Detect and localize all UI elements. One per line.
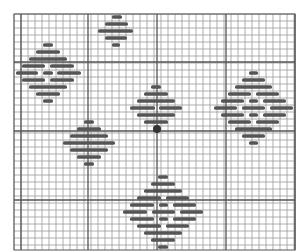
stitch-bar bbox=[123, 210, 147, 214]
lower-left-diamond bbox=[63, 120, 115, 166]
stitch-bar bbox=[249, 141, 258, 145]
stitch-bar bbox=[29, 85, 67, 89]
stitch-bar bbox=[151, 238, 175, 242]
stitch-bar bbox=[130, 217, 154, 221]
stitch-bar bbox=[159, 217, 168, 221]
stitch-bar bbox=[173, 203, 196, 207]
stitch-bar bbox=[151, 85, 161, 89]
stitch-bar bbox=[105, 22, 128, 26]
pattern-grid-svg bbox=[0, 0, 308, 252]
stitch-bar bbox=[159, 203, 168, 207]
stitch-bar bbox=[84, 120, 94, 124]
stitch-bar bbox=[16, 71, 38, 75]
stitch-bar bbox=[166, 196, 189, 200]
stitch-bar bbox=[242, 134, 265, 138]
stitch-bar bbox=[105, 36, 127, 40]
stitch-bar bbox=[159, 106, 182, 110]
stitch-bar bbox=[270, 106, 293, 110]
stitch-bar bbox=[263, 99, 286, 103]
stitch-bar bbox=[256, 120, 279, 124]
stitch-bar bbox=[50, 78, 74, 82]
stitch-bar bbox=[137, 99, 175, 103]
stitch-bar bbox=[144, 189, 182, 193]
stitch-bar bbox=[249, 71, 258, 75]
stitch-bar bbox=[235, 127, 272, 131]
stitch-bar bbox=[158, 245, 168, 249]
stitch-bar bbox=[29, 57, 67, 61]
stitch-bar bbox=[151, 182, 175, 186]
stitch-bar bbox=[180, 210, 203, 214]
stitch-bar bbox=[242, 106, 265, 110]
center-marker-icon bbox=[153, 125, 161, 133]
stitch-bar bbox=[43, 43, 53, 47]
stitch-bar bbox=[166, 224, 189, 228]
stitch-bar bbox=[63, 141, 115, 145]
stitch-bar bbox=[249, 113, 258, 117]
stitch-bar bbox=[130, 106, 155, 110]
stitch-bar bbox=[36, 92, 60, 96]
stitch-bar bbox=[235, 85, 272, 89]
stitch-bar bbox=[77, 155, 101, 159]
stitch-bar bbox=[57, 71, 81, 75]
stitch-bar bbox=[70, 134, 108, 138]
stitch-bar bbox=[43, 99, 53, 103]
stitch-bar bbox=[22, 78, 45, 82]
stitch-bar bbox=[50, 64, 74, 68]
stitch-bar bbox=[144, 231, 182, 235]
stitch-bar bbox=[228, 120, 251, 124]
stitch-bar bbox=[137, 224, 161, 228]
stitch-bar bbox=[228, 92, 251, 96]
stitch-bar bbox=[173, 217, 196, 221]
stitch-bar bbox=[36, 50, 60, 54]
stitch-bar bbox=[112, 15, 122, 19]
stitch-bar bbox=[43, 71, 53, 75]
stitch-bar bbox=[84, 162, 94, 166]
stitch-bar bbox=[144, 92, 168, 96]
stitch-bar bbox=[98, 29, 133, 33]
stitch-bar bbox=[221, 99, 244, 103]
stitch-bar bbox=[249, 99, 258, 103]
stitch-bar bbox=[214, 106, 237, 110]
stitch-bar bbox=[112, 43, 120, 47]
stitch-bar bbox=[22, 64, 45, 68]
diamond-motifs bbox=[16, 15, 293, 249]
stitch-bar bbox=[137, 113, 175, 117]
stitch-bar bbox=[158, 175, 168, 179]
stitch-bar bbox=[77, 127, 101, 131]
stitch-bar bbox=[70, 148, 108, 152]
left-diamond bbox=[16, 43, 81, 103]
stitch-bar bbox=[152, 210, 175, 214]
stitch-bar bbox=[221, 113, 244, 117]
stitch-bar bbox=[144, 120, 168, 124]
stitch-bar bbox=[263, 113, 286, 117]
stitch-bar bbox=[256, 92, 279, 96]
stitch-bar bbox=[242, 78, 265, 82]
stitch-bar bbox=[130, 203, 154, 207]
stitch-bar bbox=[137, 196, 161, 200]
